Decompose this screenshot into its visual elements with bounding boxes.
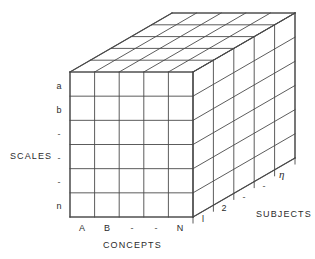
figure-canvas: SCALES a b - - - n CONCEPTS A B - - N SU… (0, 0, 315, 259)
top-face-depth-gridline (144, 13, 246, 72)
scales-tick-label-4: - (52, 153, 66, 163)
subjects-tick-label-3: - (239, 192, 249, 202)
concepts-tick-label-1: A (75, 223, 89, 233)
side-face-depth-gridline (193, 110, 295, 169)
side-face-depth-gridline (193, 37, 295, 96)
concepts-tick-label-3: - (125, 223, 139, 233)
scales-tick-label-1: a (52, 81, 66, 91)
axis-title-concepts: CONCEPTS (103, 240, 162, 250)
side-face-depth-gridline (193, 61, 295, 120)
cube-wireframe (70, 13, 295, 223)
subjects-tick-label-5: η (279, 168, 284, 180)
data-cube-drawing (0, 0, 315, 259)
scales-tick-label-3: - (52, 129, 66, 139)
top-face-depth-gridline (168, 13, 270, 72)
concepts-tick-label-2: B (100, 223, 114, 233)
cube-edge-top-left-depth (70, 13, 172, 72)
axis-title-scales: SCALES (10, 151, 52, 161)
scales-tick-label-2: b (52, 105, 66, 115)
scales-tick-label-6: n (52, 201, 66, 211)
top-face-depth-gridline (95, 13, 197, 72)
side-face-depth-gridline (193, 86, 295, 145)
cube-edge-top-right-depth (193, 13, 295, 72)
concepts-tick-label-4: - (149, 223, 163, 233)
scales-tick-label-5: - (52, 177, 66, 187)
subjects-tick-label-2: 2 (219, 203, 229, 213)
concepts-tick-label-5: N (173, 223, 187, 233)
subjects-tick-label-1: l (198, 214, 208, 224)
top-face-depth-gridline (119, 13, 221, 72)
side-face-depth-gridline (193, 134, 295, 193)
subjects-tick-label-4: - (259, 181, 269, 191)
axis-title-subjects: SUBJECTS (256, 209, 312, 219)
